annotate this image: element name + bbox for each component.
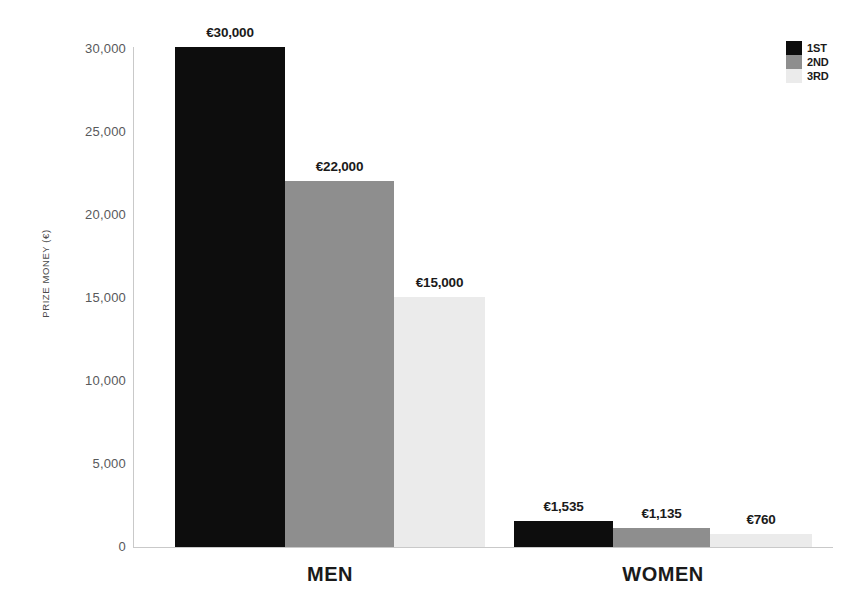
bar-men-1st[interactable]	[175, 47, 285, 547]
legend-swatch-icon	[786, 69, 802, 83]
bar-label-men-3rd: €15,000	[394, 275, 485, 290]
legend-swatch-icon	[786, 55, 802, 69]
x-axis-line	[133, 547, 833, 548]
x-category-label-men: MEN	[175, 563, 485, 586]
legend-item-2nd[interactable]: 2ND	[786, 55, 846, 69]
bar-men-2nd[interactable]	[285, 181, 394, 547]
bar-women-2nd[interactable]	[613, 528, 710, 547]
bar-women-3rd[interactable]	[710, 534, 812, 547]
y-tick-label: 10,000	[6, 373, 126, 388]
legend-item-3rd[interactable]: 3RD	[786, 69, 846, 83]
legend: 1ST 2ND 3RD	[786, 41, 846, 83]
bar-label-women-1st: €1,535	[514, 499, 613, 514]
y-axis-tick-labels: 30,000 25,000 20,000 15,000 10,000 5,000…	[0, 0, 126, 611]
legend-label: 3RD	[807, 69, 829, 83]
legend-swatch-icon	[786, 41, 802, 55]
prize-money-bar-chart: PRIZE MONEY (€) 30,000 25,000 20,000 15,…	[0, 0, 849, 611]
bar-women-1st[interactable]	[514, 521, 613, 547]
bar-label-men-2nd: €22,000	[285, 159, 394, 174]
x-category-label-women: WOMEN	[514, 563, 812, 586]
plot-area: €30,000 €22,000 €15,000 €1,535 €1,135 €7…	[134, 47, 833, 547]
legend-item-1st[interactable]: 1ST	[786, 41, 846, 55]
legend-label: 2ND	[807, 55, 829, 69]
bar-label-women-2nd: €1,135	[613, 506, 710, 521]
y-tick-label: 25,000	[6, 124, 126, 139]
bar-label-men-1st: €30,000	[175, 25, 285, 40]
bar-label-women-3rd: €760	[710, 512, 812, 527]
y-tick-label: 5,000	[6, 456, 126, 471]
y-tick-label: 20,000	[6, 207, 126, 222]
legend-label: 1ST	[807, 41, 827, 55]
y-tick-label: 15,000	[6, 290, 126, 305]
bar-men-3rd[interactable]	[394, 297, 485, 547]
y-tick-label: 0	[6, 539, 126, 554]
y-tick-label: 30,000	[6, 41, 126, 56]
